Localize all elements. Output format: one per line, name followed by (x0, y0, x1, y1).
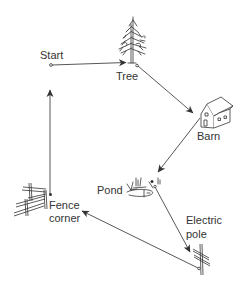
edge-start-tree (52, 63, 126, 66)
label-electric: Electric (186, 214, 222, 226)
pole-waypoint-dot (198, 267, 201, 270)
fence-waypoint-dot (49, 193, 52, 196)
tree-icon (119, 17, 146, 63)
pond-waypoint-dot (151, 180, 154, 183)
label-start: Start (40, 49, 63, 61)
label-fence: Fence (49, 199, 80, 211)
electric-pole-icon (193, 244, 210, 275)
label-pole: pole (186, 228, 207, 240)
edge-pond-pole (155, 187, 190, 252)
pond-exit-dot (154, 185, 156, 187)
start-point-icon (50, 64, 53, 67)
fence-corner-icon (14, 183, 47, 216)
tree-waypoint-dot (136, 64, 139, 67)
label-pond: Pond (97, 184, 123, 196)
label-tree: Tree (116, 70, 138, 82)
edge-tree-barn (138, 66, 193, 113)
edge-pole-fence (82, 211, 198, 268)
label-barn: Barn (197, 130, 220, 142)
barn-icon (201, 97, 233, 128)
route-diagram (0, 0, 245, 291)
label-corner: corner (49, 212, 80, 224)
edge-barn-pond (158, 118, 200, 172)
